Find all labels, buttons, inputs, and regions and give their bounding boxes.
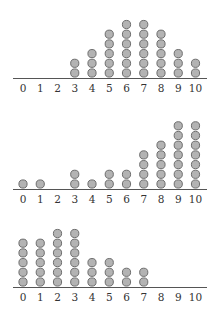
data-dot bbox=[53, 268, 61, 276]
data-dot bbox=[122, 180, 130, 188]
data-dot bbox=[122, 30, 130, 38]
x-tick-label: 2 bbox=[54, 193, 61, 205]
data-dot bbox=[122, 170, 130, 178]
data-dot bbox=[71, 259, 79, 267]
data-dot bbox=[174, 131, 182, 139]
data-dot bbox=[36, 268, 44, 276]
x-tick-label: 1 bbox=[37, 82, 44, 94]
data-dot bbox=[191, 180, 199, 188]
x-tick-label: 6 bbox=[123, 193, 130, 205]
data-dot bbox=[88, 259, 96, 267]
data-dot bbox=[71, 69, 79, 77]
x-tick-label: 4 bbox=[89, 82, 96, 94]
data-dot bbox=[53, 239, 61, 247]
data-dot bbox=[105, 259, 113, 267]
data-dot bbox=[157, 180, 165, 188]
data-dot bbox=[53, 278, 61, 286]
data-dot bbox=[88, 180, 96, 188]
data-dot bbox=[140, 20, 148, 28]
data-dot bbox=[36, 259, 44, 267]
dot-plots: 012345678910 012345678910 012345678910 bbox=[0, 0, 217, 313]
data-dot bbox=[71, 229, 79, 237]
data-dot bbox=[36, 180, 44, 188]
data-dot bbox=[191, 69, 199, 77]
data-dot bbox=[157, 141, 165, 149]
x-tick-label: 5 bbox=[106, 193, 113, 205]
x-tick-label: 9 bbox=[175, 82, 182, 94]
data-dot bbox=[140, 180, 148, 188]
data-dot bbox=[36, 249, 44, 257]
x-tick-label: 6 bbox=[123, 291, 130, 303]
x-tick-label: 8 bbox=[158, 193, 165, 205]
data-dot bbox=[105, 180, 113, 188]
data-dot bbox=[191, 141, 199, 149]
data-dot bbox=[174, 180, 182, 188]
data-dot bbox=[105, 40, 113, 48]
data-dot bbox=[191, 161, 199, 169]
data-dot bbox=[71, 249, 79, 257]
x-tick-label: 1 bbox=[37, 193, 44, 205]
data-dot bbox=[191, 122, 199, 130]
x-tick-label: 0 bbox=[20, 82, 27, 94]
x-tick-label: 9 bbox=[175, 193, 182, 205]
data-dot bbox=[105, 268, 113, 276]
dot-plot-3: 012345678910 bbox=[13, 229, 207, 303]
data-dot bbox=[140, 30, 148, 38]
x-tick-label: 1 bbox=[37, 291, 44, 303]
data-dot bbox=[122, 268, 130, 276]
x-tick-label: 3 bbox=[71, 82, 78, 94]
x-tick-label: 2 bbox=[54, 82, 61, 94]
data-dot bbox=[36, 278, 44, 286]
data-dot bbox=[140, 170, 148, 178]
data-dot bbox=[174, 69, 182, 77]
data-dot bbox=[53, 229, 61, 237]
x-tick-label: 3 bbox=[71, 291, 78, 303]
data-dot bbox=[19, 239, 27, 247]
dot-plot-2: 012345678910 bbox=[13, 122, 207, 205]
data-dot bbox=[140, 69, 148, 77]
data-dot bbox=[140, 50, 148, 58]
data-dot bbox=[19, 278, 27, 286]
data-dot bbox=[88, 278, 96, 286]
data-dot bbox=[71, 239, 79, 247]
data-dot bbox=[122, 40, 130, 48]
data-dot bbox=[88, 50, 96, 58]
data-dot bbox=[105, 69, 113, 77]
x-tick-label: 3 bbox=[71, 193, 78, 205]
data-dot bbox=[191, 59, 199, 67]
data-dot bbox=[53, 249, 61, 257]
x-tick-label: 7 bbox=[140, 82, 147, 94]
data-dot bbox=[53, 259, 61, 267]
data-dot bbox=[88, 59, 96, 67]
data-dot bbox=[174, 170, 182, 178]
x-tick-label: 5 bbox=[106, 291, 113, 303]
data-dot bbox=[174, 161, 182, 169]
data-dot bbox=[122, 50, 130, 58]
x-tick-label: 7 bbox=[140, 193, 147, 205]
data-dot bbox=[140, 151, 148, 159]
x-tick-label: 10 bbox=[189, 82, 202, 94]
data-dot bbox=[191, 131, 199, 139]
data-dot bbox=[157, 59, 165, 67]
x-tick-label: 10 bbox=[189, 291, 202, 303]
data-dot bbox=[71, 59, 79, 67]
x-tick-label: 10 bbox=[189, 193, 202, 205]
dot-plot-1: 012345678910 bbox=[13, 20, 207, 94]
data-dot bbox=[19, 268, 27, 276]
data-dot bbox=[105, 170, 113, 178]
data-dot bbox=[140, 161, 148, 169]
x-tick-label: 0 bbox=[20, 193, 27, 205]
data-dot bbox=[157, 161, 165, 169]
data-dot bbox=[71, 170, 79, 178]
data-dot bbox=[140, 40, 148, 48]
x-tick-label: 4 bbox=[89, 193, 96, 205]
data-dot bbox=[105, 278, 113, 286]
data-dot bbox=[105, 30, 113, 38]
data-dot bbox=[140, 59, 148, 67]
x-tick-label: 6 bbox=[123, 82, 130, 94]
data-dot bbox=[19, 249, 27, 257]
x-tick-label: 9 bbox=[175, 291, 182, 303]
data-dot bbox=[71, 180, 79, 188]
data-dot bbox=[174, 50, 182, 58]
data-dot bbox=[191, 170, 199, 178]
